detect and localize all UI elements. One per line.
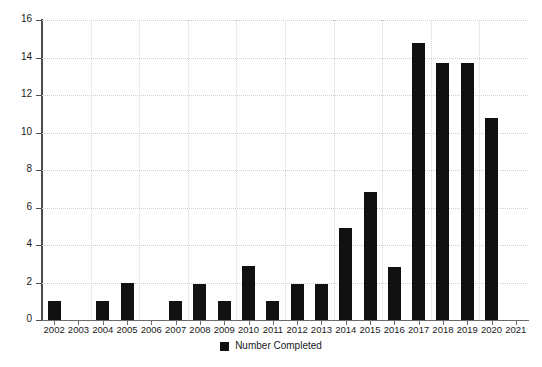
bar-2002 — [48, 301, 61, 320]
y-axis-tick: 0 — [36, 320, 42, 321]
bar-2014 — [339, 228, 352, 320]
bar-2005 — [121, 283, 134, 320]
x-axis-tick-label-2011: 2011 — [263, 324, 283, 336]
plot-area — [42, 20, 528, 320]
y-axis-tick-mark — [36, 320, 42, 321]
bar-2013 — [315, 284, 328, 320]
y-axis-tick: 8 — [36, 170, 42, 171]
y-axis-tick-label: 8 — [26, 163, 32, 175]
bar-2016 — [388, 267, 401, 320]
y-axis-tick-mark — [36, 283, 42, 284]
bar-2019 — [461, 63, 474, 320]
y-axis-tick: 14 — [36, 58, 42, 59]
x-axis-tick-label-2003: 2003 — [68, 324, 89, 336]
y-axis-tick-label: 2 — [26, 276, 32, 288]
y-axis-tick: 4 — [36, 245, 42, 246]
x-axis-tick-label-2013: 2013 — [311, 324, 332, 336]
y-axis-tick-mark — [36, 95, 42, 96]
y-axis-tick: 2 — [36, 283, 42, 284]
x-axis-tick-label-2002: 2002 — [44, 324, 65, 336]
bar-2017 — [412, 43, 425, 321]
bar-2011 — [266, 301, 279, 320]
bar-2012 — [291, 284, 304, 320]
y-axis-tick-mark — [36, 170, 42, 171]
x-axis-tick-label-2008: 2008 — [189, 324, 210, 336]
x-axis-tick-label-2010: 2010 — [238, 324, 259, 336]
y-axis-tick-mark — [36, 208, 42, 209]
y-axis-tick: 10 — [36, 133, 42, 134]
y-axis-tick: 6 — [36, 208, 42, 209]
bar-chart: Number Completed 02468101214162002200320… — [0, 0, 542, 367]
gridline-vertical — [139, 20, 140, 320]
bar-2010 — [242, 266, 255, 320]
x-axis-tick-label-2006: 2006 — [141, 324, 162, 336]
y-axis-tick-label: 6 — [26, 201, 32, 213]
gridline-vertical — [91, 20, 92, 320]
bar-2004 — [96, 301, 109, 320]
chart-legend: Number Completed — [0, 340, 542, 352]
legend-label-number-completed: Number Completed — [235, 340, 322, 352]
y-axis-tick-label: 10 — [21, 126, 32, 138]
y-axis-tick-mark — [36, 20, 42, 21]
x-axis-tick-label-2012: 2012 — [287, 324, 308, 336]
y-axis-tick-mark — [36, 245, 42, 246]
x-axis-tick-label-2019: 2019 — [457, 324, 478, 336]
gridline-vertical — [188, 20, 189, 320]
bar-2015 — [364, 192, 377, 320]
y-axis-tick-label: 14 — [21, 51, 32, 63]
y-axis-tick-mark — [36, 133, 42, 134]
gridline-vertical — [285, 20, 286, 320]
gridline-vertical — [334, 20, 335, 320]
gridline-vertical — [479, 20, 480, 320]
x-axis-tick-label-2018: 2018 — [432, 324, 453, 336]
bar-2008 — [193, 284, 206, 320]
gridline-vertical — [431, 20, 432, 320]
y-axis-tick-label: 0 — [26, 313, 32, 325]
x-axis-tick-label-2005: 2005 — [116, 324, 137, 336]
y-axis-tick-label: 4 — [26, 238, 32, 250]
bar-2009 — [218, 301, 231, 320]
gridline-vertical — [236, 20, 237, 320]
legend-swatch-number-completed — [220, 342, 229, 351]
y-axis-tick-label: 16 — [21, 13, 32, 25]
x-axis-tick-label-2007: 2007 — [165, 324, 186, 336]
x-axis-tick-label-2015: 2015 — [359, 324, 380, 336]
x-axis-tick-label-2004: 2004 — [92, 324, 113, 336]
x-axis-tick-label-2017: 2017 — [408, 324, 429, 336]
x-axis-tick-label-2014: 2014 — [335, 324, 356, 336]
y-axis-tick: 16 — [36, 20, 42, 21]
gridline-vertical — [382, 20, 383, 320]
bar-2007 — [169, 301, 182, 320]
y-axis-tick-label: 12 — [21, 88, 32, 100]
y-axis-tick-mark — [36, 58, 42, 59]
x-axis-tick-label-2016: 2016 — [384, 324, 405, 336]
x-axis-tick-label-2009: 2009 — [214, 324, 235, 336]
bar-2018 — [436, 63, 449, 320]
bar-2020 — [485, 118, 498, 321]
y-axis-tick: 12 — [36, 95, 42, 96]
x-axis-tick-label-2021: 2021 — [505, 324, 526, 336]
x-axis-tick-label-2020: 2020 — [481, 324, 502, 336]
x-axis-line — [41, 320, 529, 321]
